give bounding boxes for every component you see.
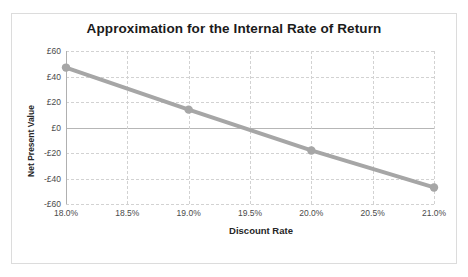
x-axis-title: Discount Rate xyxy=(77,225,445,236)
y-axis-title: Net Present Value xyxy=(24,64,38,217)
x-tick-label: 19.0% xyxy=(177,208,201,218)
data-series-line xyxy=(66,51,434,204)
gridline-horizontal xyxy=(66,204,434,205)
data-point-marker xyxy=(184,105,192,113)
x-tick-label: 21.0% xyxy=(422,208,446,218)
chart-frame: Approximation for the Internal Rate of R… xyxy=(11,13,457,264)
series-line xyxy=(66,68,434,188)
x-tick-label: 20.0% xyxy=(299,208,323,218)
y-tick-label: £20 xyxy=(47,97,61,107)
y-tick-label: £60 xyxy=(47,46,61,56)
data-point-marker xyxy=(62,63,70,71)
x-tick-label: 18.5% xyxy=(115,208,139,218)
chart-title: Approximation for the Internal Rate of R… xyxy=(12,21,456,36)
y-axis-title-label: Net Present Value xyxy=(26,105,36,177)
data-point-marker xyxy=(430,183,438,191)
x-tick-label: 18.0% xyxy=(54,208,78,218)
y-tick-label: -£40 xyxy=(44,174,61,184)
y-tick-label: £40 xyxy=(47,72,61,82)
plot-area: £60£40£20£0-£20-£40-£60 18.0%18.5%19.0%1… xyxy=(66,51,434,204)
y-tick-label: £0 xyxy=(52,123,61,133)
gridline-vertical xyxy=(434,51,435,204)
x-tick-label: 19.5% xyxy=(238,208,262,218)
data-point-marker xyxy=(307,146,315,154)
y-tick-label: -£20 xyxy=(44,148,61,158)
x-tick-label: 20.5% xyxy=(361,208,385,218)
